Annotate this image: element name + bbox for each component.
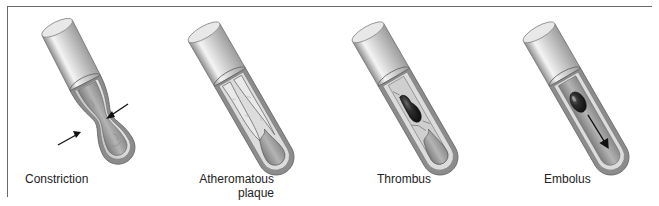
label-embolus: Embolus <box>544 172 591 186</box>
arrow-head-icon <box>73 131 81 138</box>
label-constriction: Constriction <box>25 172 88 186</box>
label-thrombus: Thrombus <box>377 172 431 186</box>
label-line-1: Atheromatous <box>188 172 274 186</box>
label-atheromatous-plaque: Atheromatous plaque <box>188 172 274 200</box>
panel-embolus: Embolus <box>489 0 649 206</box>
label-line-2: plaque <box>188 186 274 200</box>
panel-thrombus: Thrombus <box>320 0 480 206</box>
panel-constriction: Constriction <box>0 0 160 206</box>
arrow-head-icon <box>106 111 115 119</box>
panel-atheromatous-plaque: Atheromatous plaque <box>160 0 320 206</box>
